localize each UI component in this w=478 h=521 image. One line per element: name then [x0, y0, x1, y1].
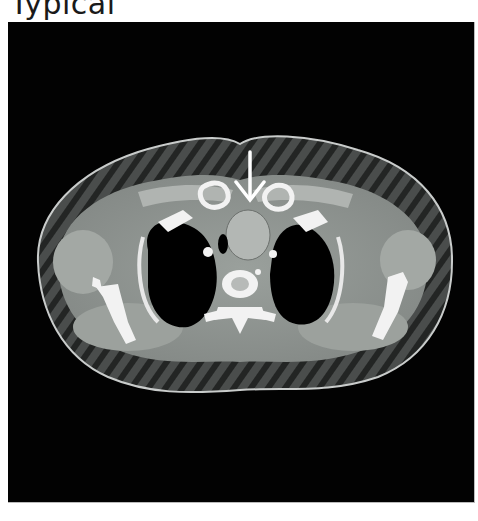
trachea-air	[218, 234, 228, 254]
ct-scan-image	[8, 22, 474, 502]
ct-image-panel	[8, 22, 475, 503]
figure-caption: Typical	[10, 0, 116, 22]
